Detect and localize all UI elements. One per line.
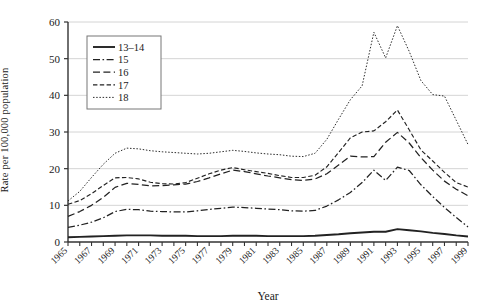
- x-tick-label-1989: 1989: [330, 244, 351, 265]
- x-axis-title: Year: [257, 290, 278, 302]
- legend-label-1: 15: [118, 54, 129, 65]
- x-tick-label-1999: 1999: [448, 244, 469, 265]
- y-tick-label-50: 50: [49, 53, 61, 65]
- line-chart: Rate per 100,000 population 010203040506…: [0, 0, 495, 308]
- legend-label-4: 18: [118, 92, 129, 103]
- legend-label-0: 13–14: [118, 42, 145, 53]
- x-tick-label-1979: 1979: [213, 244, 234, 265]
- x-tick-label-1975: 1975: [166, 244, 187, 265]
- x-tick-label-1991: 1991: [354, 244, 375, 265]
- series-line-17: [68, 110, 468, 204]
- y-tick-label-40: 40: [49, 89, 61, 101]
- series-line-13-14: [68, 229, 468, 237]
- y-tick-label-20: 20: [49, 163, 61, 175]
- x-tick-label-1981: 1981: [236, 244, 257, 265]
- x-tick-label-1969: 1969: [95, 244, 116, 265]
- x-tick-label-1977: 1977: [189, 244, 210, 265]
- x-tick-label-1995: 1995: [401, 244, 422, 265]
- y-tick-label-30: 30: [49, 126, 61, 138]
- x-tick-label-1973: 1973: [142, 244, 163, 265]
- x-tick-label-1967: 1967: [72, 244, 93, 265]
- legend-label-3: 17: [118, 80, 129, 91]
- y-tick-label-60: 60: [49, 16, 61, 28]
- y-tick-label-10: 10: [49, 199, 61, 211]
- x-tick-label-1987: 1987: [307, 244, 328, 265]
- x-tick-label-1997: 1997: [425, 244, 446, 265]
- x-tick-label-1985: 1985: [283, 244, 304, 265]
- x-tick-label-1965: 1965: [48, 244, 69, 265]
- series-line-16: [68, 132, 468, 216]
- x-tick-label-1993: 1993: [377, 244, 398, 265]
- x-tick-label-1971: 1971: [119, 244, 140, 265]
- x-tick-label-1983: 1983: [260, 244, 281, 265]
- legend-label-2: 16: [118, 67, 129, 78]
- plot-area: 0102030405060196519671969197119731975197…: [0, 0, 495, 308]
